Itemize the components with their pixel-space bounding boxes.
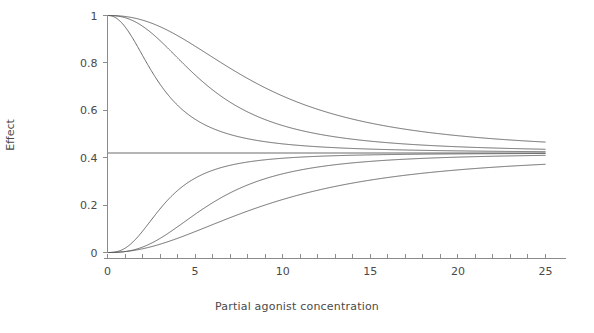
y-tick-label-2: 0.4 bbox=[80, 152, 98, 165]
x-tick-label-5: 25 bbox=[539, 265, 553, 278]
x-tick-label-1: 5 bbox=[192, 265, 199, 278]
y-tick-label-0: 0 bbox=[91, 247, 98, 260]
y-axis-label: Effect bbox=[4, 119, 17, 151]
curve-descending-slow bbox=[108, 16, 546, 143]
x-tick-label-4: 20 bbox=[451, 265, 465, 278]
plot-area: 00.20.40.60.810510152025 bbox=[0, 0, 594, 333]
curve-descending-mid bbox=[108, 16, 546, 150]
curve-descending-fast bbox=[108, 16, 546, 152]
ticks-group bbox=[103, 16, 546, 259]
curve-ascending-mid bbox=[108, 155, 546, 252]
chart-figure: Effect Partial agonist concentration 00.… bbox=[0, 0, 594, 333]
x-axis-label: Partial agonist concentration bbox=[0, 300, 594, 313]
x-tick-label-0: 0 bbox=[104, 265, 111, 278]
curve-ascending-slow bbox=[108, 164, 546, 252]
y-tick-label-4: 0.8 bbox=[80, 57, 98, 70]
tick-labels-group: 00.20.40.60.810510152025 bbox=[80, 10, 553, 278]
y-tick-label-5: 1 bbox=[91, 10, 98, 23]
curves-group bbox=[108, 16, 546, 253]
y-tick-label-1: 0.2 bbox=[80, 199, 98, 212]
y-tick-label-3: 0.6 bbox=[80, 104, 98, 117]
x-tick-label-2: 10 bbox=[276, 265, 290, 278]
x-tick-label-3: 15 bbox=[363, 265, 377, 278]
